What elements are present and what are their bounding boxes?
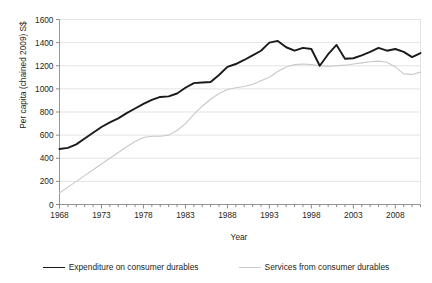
legend-label-expenditure: Expenditure on consumer durables [69, 262, 199, 272]
y-tick-label: 1400 [35, 38, 54, 48]
legend-label-services: Services from consumer durables [265, 262, 390, 272]
x-tick-label: 1973 [92, 210, 111, 220]
x-tick-labels: 196819731978198319881993199820032008 [50, 210, 405, 220]
chart-legend: Expenditure on consumer durables Service… [0, 258, 432, 276]
y-tick-label: 400 [40, 153, 54, 163]
x-tick-label: 1988 [218, 210, 237, 220]
x-axis-title: Year [58, 232, 420, 242]
y-tick-labels: 02004006008001000120014001600 [35, 15, 54, 210]
x-tick-label: 1998 [302, 210, 321, 220]
chart-figure: Per capita (chained 2009) S$ 02004006008… [0, 0, 432, 283]
x-tick-marks [60, 205, 421, 209]
x-tick-label: 1983 [176, 210, 195, 220]
data-series [60, 41, 421, 193]
x-tick-label: 2008 [386, 210, 405, 220]
y-tick-label: 0 [49, 200, 54, 210]
plot-area: 02004006008001000120014001600 1968197319… [0, 0, 432, 230]
y-tick-label: 1600 [35, 15, 54, 25]
gridlines [60, 20, 421, 205]
y-tick-label: 800 [40, 107, 54, 117]
y-tick-label: 1000 [35, 84, 54, 94]
y-tick-marks [56, 20, 60, 205]
y-tick-label: 200 [40, 176, 54, 186]
series-line-expenditure [60, 41, 421, 149]
legend-swatch-expenditure-icon [43, 267, 65, 268]
y-tick-label: 1200 [35, 61, 54, 71]
x-tick-label: 1978 [134, 210, 153, 220]
legend-item-services: Services from consumer durables [239, 262, 390, 272]
x-tick-label: 2003 [344, 210, 363, 220]
series-line-services [60, 61, 421, 193]
legend-item-expenditure: Expenditure on consumer durables [43, 262, 199, 272]
y-tick-label: 600 [40, 130, 54, 140]
legend-swatch-services-icon [239, 267, 261, 268]
x-tick-label: 1993 [260, 210, 279, 220]
x-tick-label: 1968 [50, 210, 69, 220]
